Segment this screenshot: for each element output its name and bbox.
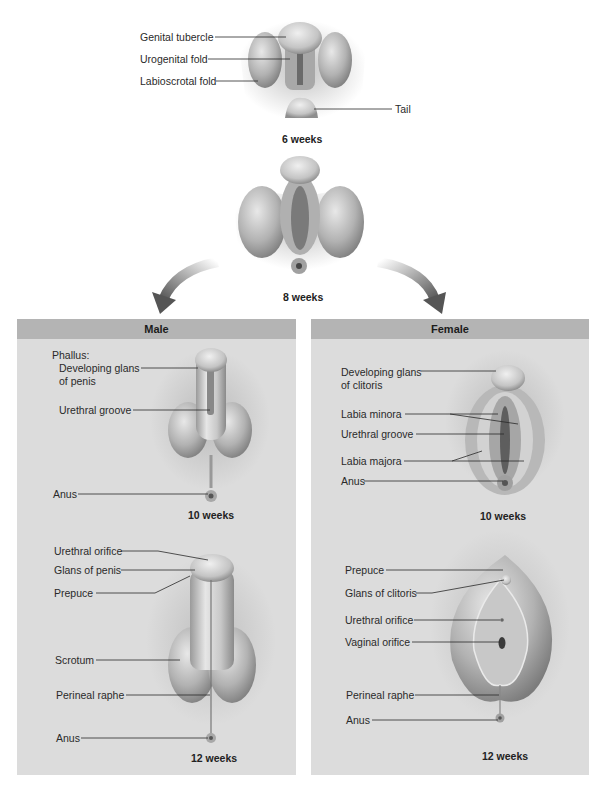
label-of-clitoris: of clitoris [341,379,382,391]
label-developing-glans-clitoris: Developing glans [341,366,422,378]
label-urethral-groove-female: Urethral groove [341,428,413,440]
female-12-weeks-drawing [430,530,570,723]
label-urethral-groove-male: Urethral groove [59,404,131,416]
label-labia-majora: Labia majora [341,455,402,467]
label-scrotum: Scrotum [55,654,94,666]
label-prepuce-female: Prepuce [345,564,384,576]
label-labioscrotal-fold: Labioscrotal fold [140,75,216,87]
label-perineal-raphe-female: Perineal raphe [346,689,414,701]
label-developing-glans-penis: Developing glans [59,362,140,374]
label-tail: Tail [395,103,411,115]
stage-label-female-12-weeks: 12 weeks [482,750,528,762]
label-genital-tubercle: Genital tubercle [140,31,214,43]
label-vaginal-orifice: Vaginal orifice [345,636,410,648]
label-urethral-orifice-female: Urethral orifice [345,614,413,626]
label-urogenital-fold: Urogenital fold [140,53,208,65]
label-glans-of-penis: Glans of penis [54,564,121,576]
label-of-penis: of penis [59,375,96,387]
label-anus-male-10: Anus [53,488,77,500]
stage-label-female-10-weeks: 10 weeks [480,510,526,522]
illustration-layer [0,0,608,787]
arrow-to-female-icon [378,262,446,314]
label-anus-female-12: Anus [346,714,370,726]
stage-label-8-weeks: 8 weeks [283,291,323,303]
label-prepuce-male: Prepuce [54,587,93,599]
label-anus-male-12: Anus [56,732,80,744]
female-10-weeks-drawing [445,350,565,495]
label-urethral-orifice-male: Urethral orifice [54,545,122,557]
label-glans-of-clitoris: Glans of clitoris [345,587,417,599]
label-perineal-raphe-male: Perineal raphe [56,689,124,701]
embryo-6-weeks-drawing [236,20,368,120]
label-phallus: Phallus: [52,349,89,361]
label-anus-female-10: Anus [341,475,365,487]
embryo-8-weeks-drawing [232,156,368,274]
stage-label-male-12-weeks: 12 weeks [191,752,237,764]
label-labia-minora: Labia minora [341,408,402,420]
stage-label-male-10-weeks: 10 weeks [188,509,234,521]
stage-label-6-weeks: 6 weeks [282,133,322,145]
male-10-weeks-drawing [150,348,270,502]
male-12-weeks-drawing [146,554,276,743]
arrow-to-male-icon [152,262,218,314]
